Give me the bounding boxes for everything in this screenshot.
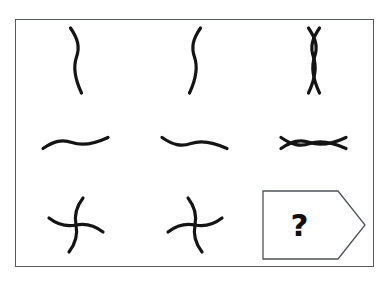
answer-banner[interactable]: ? — [262, 190, 366, 260]
matrix-cell-r2c1[interactable]: Horizontal wave — [16, 102, 135, 184]
vertical-s-curve-icon — [53, 24, 99, 98]
matrix-cell-r3c2[interactable]: Clockwise pinwheel — [135, 184, 254, 266]
matrix-cell-r3c1[interactable]: Counterclockwise pinwheel — [16, 184, 135, 266]
horizontal-wave-mirrored-icon — [158, 120, 232, 166]
matrix-cell-r3c3[interactable]: ? — [254, 184, 373, 266]
matrix-grid: Vertical S curve Mirrored vertical S cur… — [16, 20, 373, 266]
vertical-figure-eight-icon — [291, 24, 337, 98]
matrix-cell-r2c2[interactable]: Mirrored horizontal wave — [135, 102, 254, 184]
matrix-cell-r2c3[interactable]: Horizontal figure eight — [254, 102, 373, 184]
horizontal-wave-icon — [39, 120, 113, 166]
answer-question-mark: ? — [262, 190, 338, 260]
vertical-s-curve-mirrored-icon — [172, 24, 218, 98]
horizontal-figure-eight-icon — [277, 120, 351, 166]
matrix-frame: Vertical S curve Mirrored vertical S cur… — [15, 19, 374, 267]
matrix-cell-r1c3[interactable]: Vertical figure eight — [254, 20, 373, 102]
pinwheel-clockwise-icon — [160, 190, 230, 260]
matrix-cell-r1c2[interactable]: Mirrored vertical S curve — [135, 20, 254, 102]
matrix-cell-r1c1[interactable]: Vertical S curve — [16, 20, 135, 102]
pinwheel-counterclockwise-icon — [41, 190, 111, 260]
visual-analogy-puzzle: Vertical S curve Mirrored vertical S cur… — [0, 0, 387, 295]
